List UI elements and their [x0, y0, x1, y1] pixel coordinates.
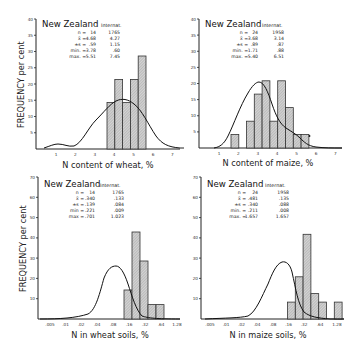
y-tick-label: 40 — [28, 17, 34, 22]
y-tick-label: 25 — [28, 65, 34, 70]
y-tick-label: 30 — [191, 49, 197, 54]
y-tick-label: 60 — [30, 195, 36, 200]
y-tick-label: 70 — [193, 175, 199, 180]
y-tick-label: 20 — [28, 82, 34, 87]
y-ticks: 5 10 15 20 25 30 35 40 — [191, 17, 199, 135]
bar — [140, 261, 148, 319]
chart-maize-soils: 10 20 30 40 50 60 70 .005 .01 .02 .04 .0… — [193, 175, 344, 341]
stats-table: n = x̄ = ±s = min. = max. = 24 3.68 .89 … — [231, 30, 284, 59]
stat-nz-value: 1.71 — [248, 48, 258, 53]
x-tick-label: .64 — [158, 322, 165, 327]
x-tick-label: .005 — [45, 322, 55, 327]
stat-label: ±s = — [234, 202, 246, 207]
stat-int-value: 7.45 — [110, 54, 120, 59]
y-tick-label: 50 — [193, 215, 199, 220]
stat-int-value: .009 — [114, 208, 124, 213]
stat-int-value: 3.14 — [274, 36, 284, 41]
x-tick-label: .32 — [142, 322, 149, 327]
figure: 5 10 15 20 25 30 35 40 1 2 3 4 5 6 7 N c… — [0, 0, 360, 354]
legend-title: New Zealand — [205, 19, 261, 29]
stat-label: n = — [240, 30, 248, 35]
stat-label: max. = — [229, 214, 246, 219]
bar — [319, 302, 327, 319]
bar — [270, 121, 278, 148]
y-tick-label: 5 — [193, 129, 196, 134]
curve-marker — [309, 135, 311, 137]
stat-int-value: 1765 — [108, 30, 120, 35]
bar — [156, 305, 164, 319]
stat-int-value: .135 — [279, 196, 289, 201]
stat-label: min. = — [233, 48, 249, 53]
stat-nz-value: 3.68 — [248, 36, 258, 41]
x-tick-label: 2 — [74, 152, 77, 157]
histogram-bars — [231, 81, 309, 148]
y-tick-label: 10 — [30, 296, 36, 301]
stat-label: min. = — [71, 48, 87, 53]
bar — [278, 81, 286, 148]
legend-compare-label: Internat. — [265, 183, 286, 188]
x-tick-label: 1.28 — [172, 322, 182, 327]
legend-title: New Zealand — [44, 179, 100, 189]
x-axis-label: N in maize soils, % — [229, 330, 306, 340]
y-ticks: 5 10 15 20 25 30 35 40 — [28, 17, 36, 136]
y-tick-label: 30 — [193, 256, 199, 261]
x-ticks: .005 .01 .02 .04 .08 .16 .32 .64 1.28 — [45, 322, 182, 327]
bar — [107, 103, 115, 150]
bar — [148, 305, 156, 319]
x-tick-label: .32 — [301, 322, 308, 327]
bar — [115, 79, 123, 149]
x-tick-label: .08 — [110, 322, 117, 327]
legend-compare-label: Internat. — [101, 23, 122, 28]
stat-nz-value: 1.657 — [245, 214, 258, 219]
x-tick-label: 7 — [334, 151, 337, 156]
stat-int-value: 1.023 — [111, 214, 124, 219]
x-tick-label: 4 — [113, 152, 116, 157]
bar — [124, 290, 132, 319]
y-tick-label: 15 — [28, 98, 34, 103]
x-tick-label: .005 — [205, 322, 215, 327]
bar — [231, 134, 239, 148]
y-tick-label: 40 — [193, 235, 199, 240]
stat-label: ±s = — [74, 42, 86, 47]
y-tick-label: 50 — [30, 215, 36, 220]
bar — [247, 121, 255, 148]
stat-nz-value: 3.78 — [86, 48, 96, 53]
chart-maize: 5 10 15 20 25 30 35 40 1 2 3 4 5 6 7 — [180, 17, 342, 169]
bar — [254, 94, 262, 148]
y-tick-label: 35 — [191, 33, 197, 38]
stat-label: x̄ = — [76, 196, 84, 201]
bar — [293, 134, 301, 148]
stat-nz-value: 14 — [90, 30, 96, 35]
histogram-bars — [288, 234, 343, 319]
bar — [262, 81, 270, 148]
x-tick-label: 2 — [237, 151, 240, 156]
stat-int-value: .88 — [277, 48, 284, 53]
y-tick-label: 60 — [193, 195, 199, 200]
stat-int-value: .133 — [114, 196, 124, 201]
chart-wheat: 5 10 15 20 25 30 35 40 1 2 3 4 5 6 7 N c… — [16, 17, 180, 171]
stat-nz-value: .211 — [248, 208, 258, 213]
bar — [138, 56, 146, 149]
stats-table: n = x̄ = ±s = min. = max. = 14 4.68 .59 … — [69, 30, 120, 59]
y-tick-label: 10 — [191, 113, 197, 118]
stat-int-value: 1958 — [272, 30, 284, 35]
y-tick-label: 30 — [30, 256, 36, 261]
stat-int-value: 1958 — [277, 190, 289, 195]
chart-wheat-soils: 10 20 30 40 50 60 70 .005 .01 .02 .04 .0… — [18, 175, 182, 341]
stat-nz-value: .59 — [89, 42, 96, 47]
stat-int-value: 4.27 — [110, 36, 120, 41]
y-tick-label: 10 — [193, 296, 199, 301]
stat-int-value: .088 — [279, 202, 289, 207]
stat-nz-value: 14 — [89, 190, 95, 195]
y-tick-label: 25 — [191, 65, 197, 70]
x-tick-label: .16 — [126, 322, 133, 327]
stat-nz-value: .340 — [248, 202, 258, 207]
x-axis-label: N in wheat soils, % — [71, 330, 149, 340]
stat-nz-value: 24 — [252, 190, 258, 195]
y-tick-label: 20 — [193, 276, 199, 281]
stat-label: max. = — [231, 54, 248, 59]
y-tick-label: 70 — [30, 175, 36, 180]
x-tick-label: .02 — [238, 322, 245, 327]
stat-int-value: 1.657 — [276, 214, 289, 219]
legend-title: New Zealand — [207, 179, 263, 189]
